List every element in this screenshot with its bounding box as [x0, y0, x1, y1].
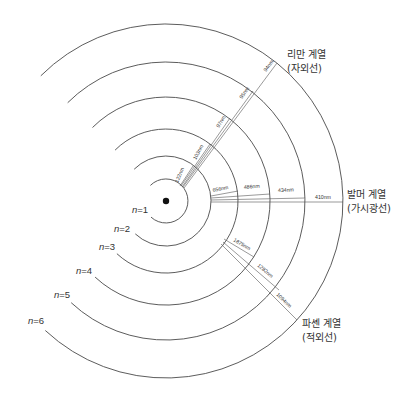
- nucleus: [163, 198, 169, 204]
- transition-line: [211, 198, 305, 200]
- paschen-series-region: (적외선): [302, 332, 337, 343]
- orbit-label-n2: n=2: [114, 223, 130, 234]
- balmer-series-region: (가시광선): [347, 203, 391, 214]
- wavelength-label: 486nm: [244, 183, 260, 190]
- balmer-series-name: 발머 계열: [347, 189, 386, 200]
- paschen-series-name: 파셴 계열: [302, 318, 341, 329]
- wavelength-label: 97nm: [215, 114, 227, 128]
- orbit-n5: [68, 62, 305, 340]
- orbit-label-n5: n=5: [54, 289, 70, 300]
- orbit-label-n1: nn=1=1: [132, 204, 148, 215]
- orbit-label-n3: n=3: [99, 241, 115, 252]
- orbit-n4: [93, 97, 271, 305]
- wavelength-label: 1282nm: [256, 262, 274, 279]
- wavelength-label: 410nm: [315, 194, 331, 200]
- lyman-series-region: (자외선): [287, 63, 322, 74]
- wavelength-label: 94nm: [262, 59, 275, 73]
- series-labels: 리만 계열 (자외선) 발머 계열 (가시광선) 파셴 계열 (적외선): [287, 49, 391, 343]
- orbit-n2: [134, 156, 211, 246]
- orbit-labels: nn=1=1 n=2 n=3 n=4 n=5 n=6: [28, 204, 148, 326]
- balmer-series-lines: 656nm 486nm 434nm 410nm: [211, 183, 343, 202]
- lyman-series-name: 리만 계열: [287, 49, 326, 60]
- transition-line: [221, 244, 297, 320]
- wavelength-label: 1094nm: [275, 291, 293, 308]
- orbit-n3: [115, 129, 238, 273]
- lyman-series-lines: 122nm 103nm 97nm 95nm 94nm: [173, 59, 277, 188]
- wavelength-label: 656nm: [212, 184, 229, 193]
- transition-line: [182, 118, 230, 187]
- paschen-series-lines: 1875nm 1282nm 1094nm: [221, 237, 297, 320]
- orbit-label-n4: n=4: [76, 265, 92, 276]
- orbits: [41, 24, 343, 378]
- transition-line: [183, 91, 253, 187]
- hydrogen-spectrum-diagram: nn=1=1 n=2 n=3 n=4 n=5 n=6 122nm 103nm 9…: [0, 0, 413, 401]
- wavelength-label: 434nm: [278, 186, 294, 193]
- transition-line: [223, 242, 279, 290]
- orbit-label-n6: n=6: [28, 315, 44, 326]
- orbit-n6: [41, 24, 343, 378]
- wavelength-label: 1875nm: [233, 237, 252, 252]
